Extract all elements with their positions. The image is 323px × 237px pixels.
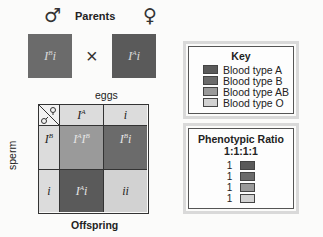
- swatch-type-ab: [203, 87, 218, 96]
- female-parent-box: IAi: [112, 34, 156, 78]
- male-parent-box: IBi: [28, 34, 72, 78]
- row-header-IB: IB: [39, 126, 60, 170]
- parents-title: Parents: [75, 10, 115, 22]
- key-panel: Key Blood type A Blood type B Blood type…: [183, 41, 299, 119]
- punnett-square: IA i IB IAIB IBi i IAi ii: [38, 104, 149, 214]
- row-header-i: i: [39, 170, 60, 212]
- offspring-label: Offspring: [71, 219, 118, 231]
- ratio-item-a: 1: [189, 160, 293, 171]
- key-item-type-a: Blood type A: [203, 64, 293, 75]
- offspring-cell-ii: ii: [104, 170, 147, 212]
- phenotypic-ratio-panel: Phenotypic Ratio 1:1:1:1 1 1 1 1: [183, 123, 299, 214]
- swatch-type-a: [203, 65, 218, 74]
- key-title: Key: [189, 50, 293, 62]
- column-header-i: i: [104, 105, 147, 126]
- male-genotype: IBi: [44, 48, 56, 64]
- offspring-cell-IBi: IBi: [104, 126, 147, 170]
- male-female-corner-icon: [39, 105, 59, 126]
- female-symbol-icon: ♀: [143, 6, 157, 25]
- ratio-title: Phenotypic Ratio: [189, 133, 293, 145]
- ratio-item-b: 1: [189, 171, 293, 182]
- key-item-type-ab: Blood type AB: [203, 86, 293, 97]
- corner-cell: [39, 105, 60, 126]
- male-symbol-icon: ♂: [44, 6, 61, 25]
- ratio-value: 1:1:1:1: [189, 145, 293, 157]
- swatch-type-b: [203, 76, 218, 85]
- key-item-type-b: Blood type B: [203, 75, 293, 86]
- female-genotype: IAi: [128, 48, 140, 64]
- offspring-cell-IAIB: IAIB: [60, 126, 104, 170]
- swatch-type-o: [203, 98, 218, 107]
- offspring-cell-IAi: IAi: [60, 170, 104, 212]
- key-item-type-o: Blood type O: [203, 97, 293, 108]
- ratio-item-o: 1: [189, 193, 293, 204]
- ratio-item-ab: 1: [189, 182, 293, 193]
- cross-symbol: ×: [86, 45, 98, 68]
- eggs-label: eggs: [95, 89, 118, 101]
- column-header-IA: IA: [60, 105, 104, 126]
- sperm-label: sperm: [6, 141, 18, 170]
